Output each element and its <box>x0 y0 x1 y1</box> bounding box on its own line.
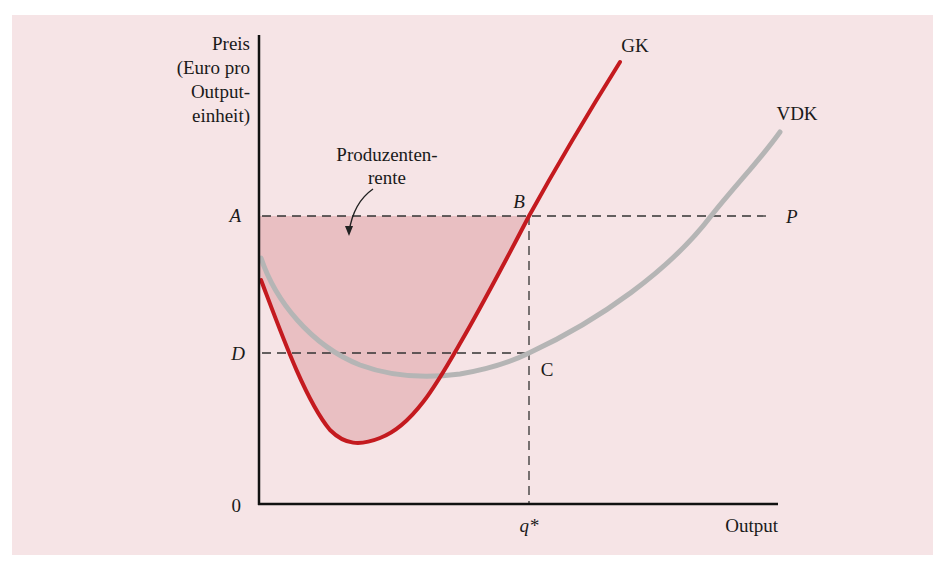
y-axis-title-line2: (Euro pro <box>177 57 250 79</box>
annotation-producer-surplus-line2: rente <box>368 167 406 188</box>
point-label-b: B <box>513 191 525 212</box>
price-label-p: P <box>785 206 798 227</box>
y-label-d: D <box>230 343 245 364</box>
chart-svg: Preis (Euro pro Output- einheit) A D 0 q… <box>0 0 946 565</box>
y-axis-title-line4: einheit) <box>192 105 250 127</box>
x-axis-title: Output <box>725 515 779 536</box>
point-label-c: C <box>541 359 554 380</box>
y-axis-title-line3: Output- <box>191 81 250 102</box>
gk-label: GK <box>621 35 649 56</box>
origin-label: 0 <box>232 495 242 516</box>
producer-surplus-area <box>259 216 529 443</box>
y-axis-title-line1: Preis <box>212 33 250 54</box>
vdk-label: VDK <box>776 103 817 124</box>
x-label-q-star: q* <box>520 515 540 536</box>
annotation-producer-surplus-line1: Produzenten- <box>336 144 437 165</box>
y-label-a: A <box>227 205 241 226</box>
